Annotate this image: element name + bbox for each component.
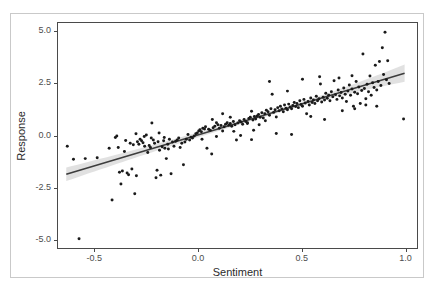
ytick-label-0: 0.0 (23, 130, 51, 140)
data-point (308, 103, 311, 106)
data-point (205, 147, 208, 150)
data-point (344, 93, 347, 96)
data-point (132, 143, 135, 146)
data-point (161, 145, 164, 148)
data-point (157, 140, 160, 143)
data-point (283, 103, 286, 106)
data-point (115, 134, 118, 137)
x-tickmark (406, 249, 407, 252)
data-point (315, 95, 318, 98)
data-point (301, 78, 304, 81)
data-point (286, 90, 289, 93)
data-point (229, 122, 232, 125)
data-point (341, 109, 344, 112)
data-point (340, 91, 343, 94)
chart-figure: 5.0 2.5 0.0 -2.5 -5.0 -0.5 0.0 0.5 1.0 R… (10, 13, 424, 278)
data-point (320, 101, 323, 104)
data-point (121, 170, 124, 173)
data-point (263, 112, 266, 115)
data-point (319, 82, 322, 85)
data-point (313, 102, 316, 105)
data-point (167, 147, 170, 150)
data-point (326, 97, 329, 100)
xtick-label-1: 1.0 (391, 253, 421, 263)
data-point (250, 110, 253, 113)
data-point (127, 173, 130, 176)
data-point (183, 141, 186, 144)
data-point (318, 75, 321, 78)
data-point (257, 113, 260, 116)
data-point (258, 123, 261, 126)
data-point (163, 147, 166, 150)
data-point (213, 125, 216, 128)
data-point (274, 108, 277, 111)
data-point (304, 101, 307, 104)
data-point (291, 104, 294, 107)
data-point (388, 82, 391, 85)
data-point (235, 139, 238, 142)
data-point (246, 121, 249, 124)
data-point (182, 163, 185, 166)
data-point (143, 135, 146, 138)
y-tickmark (54, 83, 57, 84)
data-point (275, 132, 278, 135)
data-point (379, 84, 382, 87)
x-tickmark (94, 249, 95, 252)
data-point (338, 77, 341, 80)
confidence-band (66, 64, 404, 181)
data-point (378, 60, 381, 63)
data-point (146, 151, 149, 154)
data-point (290, 133, 293, 136)
y-tickmark (54, 136, 57, 137)
data-point (218, 127, 221, 130)
data-point (377, 80, 380, 83)
ytick-label-neg5: -5.0 (23, 234, 51, 244)
data-point (280, 108, 283, 111)
data-point (349, 94, 352, 97)
data-point (188, 139, 191, 142)
data-point (186, 133, 189, 136)
data-point (351, 88, 354, 91)
data-point (323, 99, 326, 102)
data-point (373, 86, 376, 89)
data-point (367, 90, 370, 93)
data-point (137, 143, 140, 146)
data-point (204, 125, 207, 128)
data-point (307, 100, 310, 103)
x-tickmark (198, 249, 199, 252)
data-point (353, 91, 356, 94)
data-point (348, 83, 351, 86)
data-point (342, 87, 345, 90)
ytick-label-neg2_5: -2.5 (23, 182, 51, 192)
data-point (150, 136, 153, 139)
data-point (130, 167, 133, 170)
data-point (279, 105, 282, 108)
data-point (66, 145, 69, 148)
y-axis-label: Response (15, 111, 27, 161)
data-point (359, 102, 362, 105)
data-point (337, 89, 340, 92)
data-point (229, 116, 232, 119)
data-point (366, 83, 369, 86)
data-points-group (66, 31, 405, 240)
data-point (108, 147, 111, 150)
data-point (375, 89, 378, 92)
data-point (168, 138, 171, 141)
data-point (322, 96, 325, 99)
data-point (177, 136, 180, 139)
data-point (346, 90, 349, 93)
x-tickmark (302, 249, 303, 252)
data-point (302, 98, 305, 101)
data-point (264, 119, 267, 122)
data-point (133, 192, 136, 195)
data-point (251, 119, 254, 122)
data-point (371, 81, 374, 84)
data-point (153, 142, 156, 145)
data-point (117, 146, 120, 149)
plot-panel (57, 22, 418, 249)
data-point (345, 100, 348, 103)
data-point (331, 95, 334, 98)
data-point (170, 172, 173, 175)
data-point (236, 122, 239, 125)
data-point (268, 80, 271, 83)
